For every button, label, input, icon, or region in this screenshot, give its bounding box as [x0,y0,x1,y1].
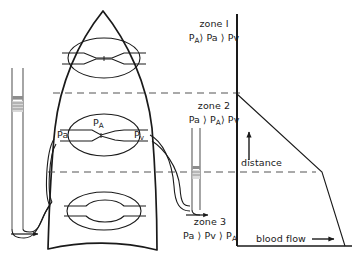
zone2-title: zone 2 [182,100,246,112]
alveolar-pressure-sub: A [99,121,104,130]
alveolar-pressure-main: P [93,117,99,128]
figure-canvas: zone I PA⟩ Pa ⟩ Pv zone 2 Pa ⟩ PA⟩ Pv zo… [0,0,356,264]
zone3-eq-a-sub: A [232,234,237,243]
zone1-eq-rest: ⟩ Pa ⟩ Pv [200,32,240,43]
graph-curve [237,94,345,246]
zone1-eq-a-sub: A [194,36,199,45]
zone2-relation: Pa ⟩ PA⟩ Pv [176,114,252,127]
graph-y-axis-label: distance [241,157,282,169]
zone2-eq-a: Pa ⟩ P [189,114,216,125]
venous-pressure-label: Pv [134,129,144,142]
graph-x-axis-label: blood flow [256,233,306,245]
blood-flow-curve [237,94,345,246]
alveolar-pressure-label: PA [93,117,104,130]
zone3-relation: Pa ⟩ Pv ⟩ PA [170,230,250,243]
arterial-pressure-label: Pa [57,129,68,141]
zone2-eq-rest: ⟩ Pv [221,114,239,125]
zone3-eq-a: Pa ⟩ Pv ⟩ P [183,230,232,241]
zone2-eq-a-sub: A [216,118,221,127]
venous-pressure-sub: v [140,133,144,142]
zone3-title: zone 3 [176,216,244,228]
zone1-title: zone I [182,18,246,30]
venous-pressure-main: P [134,129,140,140]
zone1-relation: PA⟩ Pa ⟩ Pv [176,32,252,45]
